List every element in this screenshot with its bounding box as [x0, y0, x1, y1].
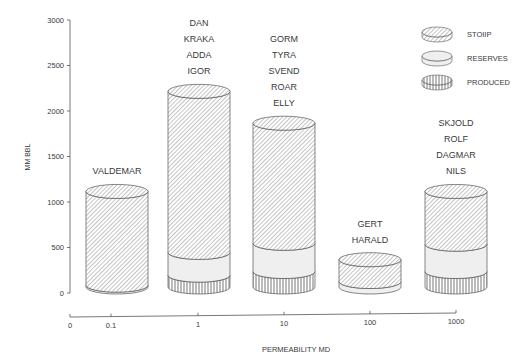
cylinder-group: GORMTYRASVENDROARELLY [253, 34, 315, 294]
field-label: VALDEMAR [93, 166, 142, 176]
legend: STOIIPRESERVESPRODUCED [422, 27, 511, 90]
field-label: DAN [189, 18, 208, 28]
field-label: SKJOLD [438, 118, 474, 128]
stoiip-segment [253, 123, 315, 250]
x-axis-label: PERMEABILITY MD [262, 345, 331, 354]
x-tick-label: 10 [280, 319, 288, 328]
y-axis-label: MM BBL [24, 143, 31, 170]
cylinder-top [425, 184, 487, 198]
x-tick-label: 1 [196, 320, 200, 329]
field-label: GORM [270, 34, 298, 44]
x-tick-label: 0.1 [106, 321, 116, 330]
field-label: SVEND [268, 66, 300, 76]
cylinder-group: GERTHARALD [339, 219, 401, 294]
legend-label: STOIIP [467, 30, 491, 39]
field-label: ROLF [444, 134, 469, 144]
x-tick-label: 0 [68, 321, 72, 330]
y-tick-label: 0 [60, 289, 64, 298]
x-axis: 00.11101001000 [68, 310, 464, 330]
legend-label: RESERVES [467, 54, 508, 63]
field-label: DAGMAR [436, 150, 476, 160]
chart-canvas: 050010001500200025003000 00.11101001000 … [0, 0, 532, 364]
stoiip-segment [168, 91, 230, 259]
field-label: ELLY [273, 98, 294, 108]
cylinder-top [86, 184, 148, 198]
legend-item-produced: PRODUCED [422, 75, 511, 90]
y-tick-label: 2500 [47, 61, 64, 70]
cylinder-top [339, 253, 401, 267]
y-tick-label: 2000 [47, 107, 64, 116]
y-axis: 050010001500200025003000 [47, 16, 70, 298]
cylinder-top [168, 84, 230, 98]
field-label: NILS [446, 166, 466, 176]
legend-item-stoiip: STOIIP [422, 27, 491, 42]
legend-label: PRODUCED [467, 78, 511, 87]
field-label: HARALD [352, 235, 389, 245]
field-label: ROAR [271, 82, 298, 92]
stoiip-segment [425, 191, 487, 251]
y-tick-label: 3000 [47, 16, 64, 25]
y-tick-label: 500 [51, 243, 64, 252]
cylinder-top [253, 116, 315, 130]
legend-item-reserves: RESERVES [422, 51, 508, 66]
field-label: GERT [358, 219, 383, 229]
cylinder-group: SKJOLDROLFDAGMARNILS [425, 118, 487, 294]
y-tick-label: 1500 [47, 152, 64, 161]
stoiip-segment [86, 191, 148, 292]
field-label: TYRA [272, 50, 296, 60]
x-tick-label: 100 [364, 318, 377, 327]
field-label: IGOR [187, 66, 211, 76]
field-label: ADDA [186, 50, 211, 60]
cylinder-group: DANKRAKAADDAIGOR [168, 18, 230, 294]
cylinder-group: VALDEMAR [86, 166, 148, 294]
field-label: KRAKA [184, 34, 215, 44]
y-tick-label: 1000 [47, 198, 64, 207]
x-tick-label: 1000 [448, 317, 465, 326]
